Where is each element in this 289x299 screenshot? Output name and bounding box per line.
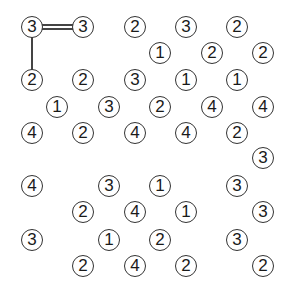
island[interactable]: 4: [252, 96, 274, 118]
island[interactable]: 1: [98, 229, 120, 251]
island[interactable]: 2: [201, 42, 223, 64]
island[interactable]: 4: [175, 122, 197, 144]
island[interactable]: 2: [149, 96, 171, 118]
island[interactable]: 1: [175, 201, 197, 223]
island[interactable]: 3: [21, 229, 43, 251]
island[interactable]: 4: [21, 122, 43, 144]
island[interactable]: 2: [124, 16, 146, 38]
island[interactable]: 2: [175, 255, 197, 277]
island[interactable]: 3: [226, 175, 248, 197]
island[interactable]: 2: [149, 229, 171, 251]
island[interactable]: 1: [149, 42, 171, 64]
island[interactable]: 3: [175, 16, 197, 38]
island[interactable]: 1: [175, 69, 197, 91]
island[interactable]: 2: [226, 16, 248, 38]
island[interactable]: 3: [72, 16, 94, 38]
island[interactable]: 2: [252, 255, 274, 277]
island[interactable]: 3: [21, 16, 43, 38]
island[interactable]: 1: [46, 96, 68, 118]
island[interactable]: 4: [124, 255, 146, 277]
island[interactable]: 2: [72, 122, 94, 144]
island[interactable]: 3: [252, 201, 274, 223]
island[interactable]: 4: [201, 96, 223, 118]
island[interactable]: 2: [21, 69, 43, 91]
island[interactable]: 4: [124, 122, 146, 144]
island[interactable]: 3: [124, 69, 146, 91]
island[interactable]: 4: [124, 201, 146, 223]
island[interactable]: 3: [252, 147, 274, 169]
island[interactable]: 2: [72, 201, 94, 223]
island[interactable]: 3: [226, 229, 248, 251]
island[interactable]: 2: [72, 69, 94, 91]
island[interactable]: 1: [149, 175, 171, 197]
island[interactable]: 1: [226, 69, 248, 91]
island[interactable]: 3: [98, 96, 120, 118]
island[interactable]: 2: [72, 255, 94, 277]
island[interactable]: 2: [252, 42, 274, 64]
puzzle-board: 3323212222311132444244234313241331232422: [0, 0, 289, 299]
island[interactable]: 3: [98, 175, 120, 197]
island[interactable]: 2: [226, 122, 248, 144]
island[interactable]: 4: [21, 175, 43, 197]
